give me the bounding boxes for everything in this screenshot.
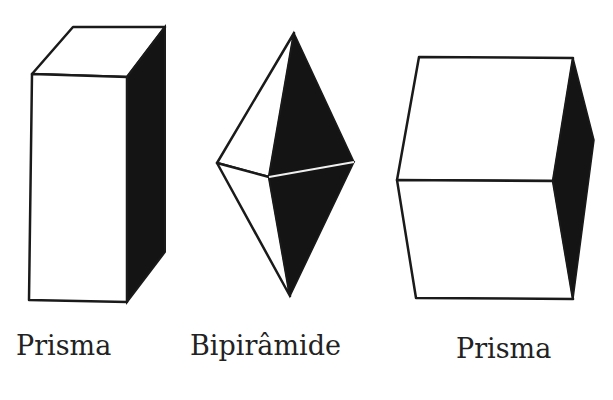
prism-tall-shape (29, 27, 165, 302)
bipyramid-shape (217, 33, 354, 296)
prism-tall-side-face-shaded (127, 27, 165, 302)
prism-wide-upper-face (397, 57, 573, 181)
label-prism-wide: Prisma (456, 333, 551, 364)
label-bipyramid: Bipirâmide (190, 330, 341, 361)
label-prism-tall: Prisma (16, 330, 111, 361)
prism-wide-shape (397, 57, 594, 299)
prism-tall-front-face (29, 74, 127, 302)
prism-wide-lower-face (397, 180, 573, 299)
